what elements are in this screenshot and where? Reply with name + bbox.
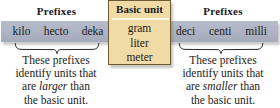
prefix-deci: deci [176,25,195,38]
left-caption: These prefixes identify units that are l… [0,54,112,107]
basic-unit-liter: liter [109,36,170,51]
right-caption-line-4: the basic unit. [166,94,280,107]
right-caption-line-2: identify units that [166,67,280,80]
left-caption-line-3: are larger than [0,80,112,93]
right-caption: These prefixes identify units that are s… [166,54,280,107]
basic-unit-divider [112,18,169,20]
right-prefix-bar: deci centi milli [165,21,278,42]
left-prefixes-heading: Prefixes [0,5,113,18]
left-prefix-bar: kilo hecto deka [1,21,115,42]
right-caption-line-3-after: than [237,80,260,92]
prefix-milli: milli [245,25,267,38]
prefix-hecto: hecto [44,25,69,38]
left-caption-line-3-before: are [22,80,39,92]
metric-prefix-diagram: Prefixes Prefixes kilo hecto deka deci c… [0,0,280,108]
left-caption-emphasis: larger [39,80,67,92]
prefix-kilo: kilo [13,25,31,38]
right-prefixes-heading: Prefixes [166,5,280,18]
right-caption-emphasis: smaller [203,80,238,92]
basic-unit-title: Basic unit [109,2,170,16]
left-caption-line-2: identify units that [0,67,112,80]
basic-unit-gram: gram [109,21,170,36]
prefix-centi: centi [209,25,231,38]
basic-unit-box: Basic unit gram liter meter [108,0,171,65]
left-caption-line-4: the basic unit. [0,94,112,107]
right-caption-line-3: are smaller than [166,80,280,93]
right-caption-line-3-before: are [186,80,203,92]
basic-unit-meter: meter [109,50,170,65]
basic-unit-list: gram liter meter [109,21,170,65]
prefix-deka: deka [82,25,104,38]
left-caption-line-1: These prefixes [0,54,112,67]
left-caption-line-3-after: than [67,80,90,92]
right-caption-line-1: These prefixes [166,54,280,67]
